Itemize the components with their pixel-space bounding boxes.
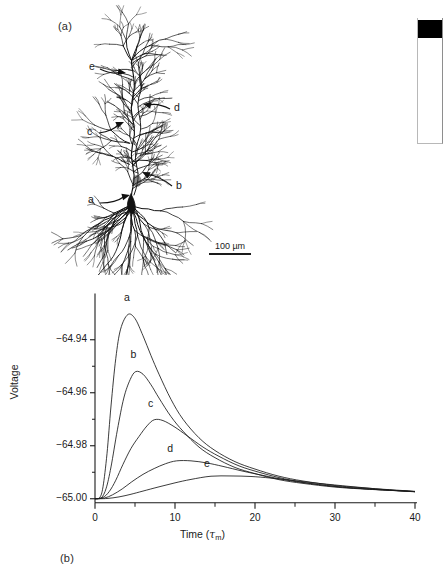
x-tick-label: 0 [75, 512, 115, 523]
neuron-morphology-drawing [0, 0, 443, 275]
morphology-marker-label-d: d [174, 101, 180, 113]
scale-bar-line [209, 253, 251, 255]
curve-d [95, 461, 415, 499]
y-tick-label: −64.94 [33, 333, 87, 344]
x-tick-label: 30 [315, 512, 355, 523]
curve-e [95, 476, 415, 499]
curve-label-b: b [130, 348, 136, 360]
vertical-scrollbar[interactable] [417, 18, 443, 144]
voltage-time-chart [0, 272, 443, 567]
x-tick-label: 10 [155, 512, 195, 523]
scale-bar-label: 100 µm [203, 241, 257, 252]
tau-subscript: m [215, 533, 221, 542]
morphology-marker-label-c: c [87, 125, 92, 137]
figure-root: (a) 100 µm abcde (b) Voltage Time (τm) −… [0, 0, 443, 567]
curve-label-e: e [204, 457, 210, 469]
panel-b-voltage-plot: (b) Voltage Time (τm) −64.94−64.96−64.98… [0, 272, 443, 567]
scale-bar: 100 µm [203, 241, 257, 255]
curve-label-a: a [124, 291, 130, 303]
x-axis-title: Time (τm) [180, 528, 225, 542]
y-tick-label: −64.98 [33, 439, 87, 450]
panel-a-neuron-morphology: (a) 100 µm abcde [0, 0, 443, 275]
morphology-marker-label-b: b [176, 179, 182, 191]
y-tick-label: −64.96 [33, 386, 87, 397]
y-tick-label: −65.00 [33, 492, 87, 503]
morphology-marker-label-e: e [89, 60, 95, 72]
y-axis-title: Voltage [8, 350, 20, 414]
curve-label-c: c [148, 397, 153, 409]
curve-c [95, 419, 415, 498]
x-tick-label: 20 [235, 512, 275, 523]
scrollbar-thumb[interactable] [418, 20, 442, 38]
x-tick-label: 40 [395, 512, 435, 523]
morphology-marker-label-a: a [88, 193, 94, 205]
curve-b [95, 371, 415, 499]
curve-label-d: d [167, 442, 173, 454]
